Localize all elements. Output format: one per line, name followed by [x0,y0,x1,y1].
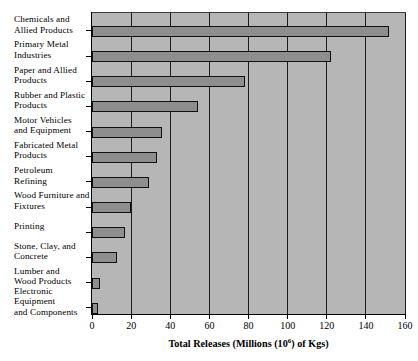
bar [92,26,389,37]
y-axis-tick [86,56,91,57]
x-axis-tick [209,315,210,319]
bar [92,252,117,263]
bar [92,278,100,289]
x-axis-title-prefix: Total Releases (Millions (10 [168,338,287,349]
x-axis-tick [92,315,93,319]
x-axis-tick-label: 0 [77,320,107,331]
x-axis-tick [365,315,366,319]
x-axis-tick-label: 20 [116,320,146,331]
x-axis-tick-label: 60 [194,320,224,331]
category-label: Printing [14,221,94,231]
category-label: Fabricated Metal Products [14,140,94,161]
category-label: Wood Furniture and Fixtures [14,190,94,211]
y-axis-tick [86,106,91,107]
y-axis-tick [86,207,91,208]
y-axis-tick [86,81,91,82]
category-axis-labels: Chemicals and Allied ProductsPrimary Met… [0,12,92,314]
y-axis-tick [86,257,91,258]
x-axis-tick-label: 80 [234,320,264,331]
bar [92,303,98,314]
bar [92,101,198,112]
x-axis-tick-label: 40 [155,320,185,331]
category-label: Electronic Equipment and Components [14,286,94,317]
y-axis-tick [86,232,91,233]
bar [92,202,131,213]
category-label: Chemicals and Allied Products [14,14,94,35]
bar [92,177,149,188]
x-axis-tick [326,315,327,319]
category-label: Paper and Allied Products [14,65,94,86]
x-axis-tick-label: 140 [351,320,381,331]
x-axis-tick [248,315,249,319]
bar-chart: Chemicals and Allied ProductsPrimary Met… [0,0,418,361]
bar [92,127,162,138]
x-axis-tick [131,315,132,319]
bar [92,152,157,163]
y-axis-tick [86,156,91,157]
bar [92,51,331,62]
y-axis-tick [86,30,91,31]
y-axis-tick [86,131,91,132]
category-label: Lumber and Wood Products [14,266,94,287]
x-axis-tick [405,315,406,319]
category-label: Motor Vehicles and Equipment [14,115,94,136]
y-axis-tick [86,307,91,308]
category-label: Rubber and Plastic Products [14,90,94,111]
x-axis-tick-label: 100 [273,320,303,331]
x-axis-tick-label: 120 [312,320,342,331]
category-label: Stone, Clay, and Concrete [14,241,94,262]
y-axis-line [91,12,92,315]
gridline [365,13,366,315]
plot-area [92,12,406,315]
y-axis-tick [86,181,91,182]
x-axis-title-suffix: ) of Kgs) [291,338,328,349]
category-label: Primary Metal Industries [14,39,94,60]
gridline [405,13,406,315]
y-axis-tick [86,282,91,283]
bar [92,227,125,238]
category-label: Petroleum Refining [14,165,94,186]
bar [92,76,245,87]
x-axis-tick-label: 160 [390,320,418,331]
x-axis-tick [287,315,288,319]
x-axis-title: Total Releases (Millions (106) of Kgs) [92,338,405,350]
x-axis-tick [170,315,171,319]
